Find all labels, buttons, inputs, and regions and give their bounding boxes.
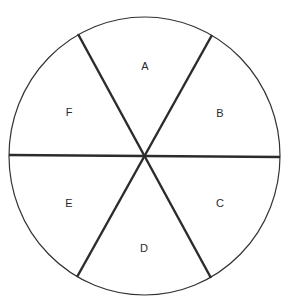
six-sector-circle-diagram: A B C D E F: [0, 0, 286, 300]
sector-label-b: B: [216, 107, 223, 119]
sector-label-d: D: [140, 242, 148, 254]
sector-label-f: F: [66, 106, 73, 118]
sector-label-e: E: [65, 197, 72, 209]
sector-label-a: A: [141, 60, 149, 72]
sector-label-c: C: [216, 197, 224, 209]
